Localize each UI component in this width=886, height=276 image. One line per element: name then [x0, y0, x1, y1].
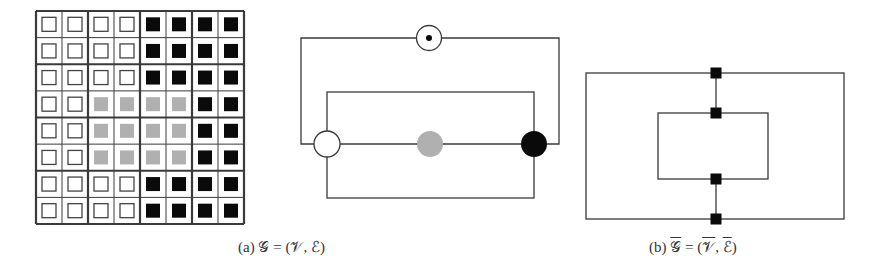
caption-b-label: (b) [649, 239, 667, 255]
figure: (a) 𝒢 = (𝒱, ℰ) (b) 𝒢 = (𝒱, ℰ) [0, 0, 886, 276]
cell-black [224, 44, 238, 58]
cell-gray [94, 124, 108, 138]
caption-a-close: ) [320, 239, 325, 255]
edge-outer-rect [586, 73, 844, 219]
center-dot [426, 35, 432, 41]
cell-white [120, 17, 134, 31]
cell-white [68, 150, 82, 164]
cell-white [42, 17, 56, 31]
cell-gray [120, 150, 134, 164]
cell-white [42, 44, 56, 58]
cell-white [68, 177, 82, 191]
caption-b-vertices: 𝒱 [702, 238, 715, 256]
cell-white [42, 124, 56, 138]
cell-black [198, 97, 212, 111]
caption-a-label: (a) [238, 239, 255, 255]
cell-black [198, 124, 212, 138]
cell-white [94, 177, 108, 191]
caption-b: (b) 𝒢 = (𝒱, ℰ) [649, 238, 737, 256]
cell-gray [120, 124, 134, 138]
square-node [711, 68, 722, 79]
cell-white [68, 17, 82, 31]
cell-gray [120, 97, 134, 111]
graph-a [301, 26, 559, 199]
cell-gray [172, 150, 186, 164]
cell-white [94, 71, 108, 85]
cell-black [224, 124, 238, 138]
cell-black [198, 17, 212, 31]
square-node [711, 214, 722, 225]
cell-black [224, 97, 238, 111]
cell-black [224, 71, 238, 85]
cell-black [198, 177, 212, 191]
caption-b-edges: ℰ [723, 238, 732, 256]
caption-b-close: ) [732, 239, 737, 255]
cell-white [120, 177, 134, 191]
cell-black [146, 17, 160, 31]
gray-node [417, 131, 443, 157]
cell-black [198, 204, 212, 218]
cell-white [42, 71, 56, 85]
cell-gray [172, 97, 186, 111]
caption-a: (a) 𝒢 = (𝒱, ℰ) [238, 238, 325, 256]
cell-white [94, 17, 108, 31]
figure-canvas [0, 0, 886, 276]
caption-a-graph: 𝒢 [258, 238, 269, 256]
cell-black [172, 71, 186, 85]
caption-b-eq: = [685, 239, 693, 255]
cell-gray [172, 124, 186, 138]
cell-black [224, 150, 238, 164]
cell-black [198, 44, 212, 58]
caption-a-edges: ℰ [311, 238, 320, 256]
cell-white [42, 150, 56, 164]
cell-black [172, 44, 186, 58]
cell-white [120, 204, 134, 218]
cell-black [224, 204, 238, 218]
cell-gray [94, 150, 108, 164]
square-node [711, 174, 722, 185]
cell-white [68, 97, 82, 111]
cell-black [146, 71, 160, 85]
edge-outer-loop [301, 38, 559, 144]
caption-a-comma: , [303, 239, 307, 255]
cell-white [120, 44, 134, 58]
caption-a-vertices: 𝒱 [290, 238, 303, 256]
cell-black [146, 177, 160, 191]
cell-white [68, 71, 82, 85]
cell-gray [146, 150, 160, 164]
cell-black [198, 71, 212, 85]
edge-inner-rect [658, 113, 768, 179]
cell-white [42, 97, 56, 111]
white-node [314, 131, 340, 157]
cell-white [94, 44, 108, 58]
cell-white [68, 44, 82, 58]
cell-gray [94, 97, 108, 111]
cell-black [172, 177, 186, 191]
black-node [521, 131, 547, 157]
cell-black [146, 44, 160, 58]
cell-white [68, 204, 82, 218]
graph-a-nodes [314, 26, 547, 158]
cell-black [224, 17, 238, 31]
cell-white [42, 177, 56, 191]
cell-white [120, 71, 134, 85]
cell-white [68, 124, 82, 138]
cell-white [42, 204, 56, 218]
cell-gray [146, 124, 160, 138]
graph-b [586, 68, 844, 225]
cell-white [94, 204, 108, 218]
cell-black [224, 177, 238, 191]
cell-black [198, 150, 212, 164]
caption-a-eq: = [273, 239, 281, 255]
cell-gray [146, 97, 160, 111]
caption-b-graph: 𝒢 [670, 238, 681, 256]
caption-b-comma: , [715, 239, 719, 255]
cell-black [172, 204, 186, 218]
square-node [711, 108, 722, 119]
partition-grid [36, 11, 244, 224]
cell-black [146, 204, 160, 218]
cell-black [172, 17, 186, 31]
